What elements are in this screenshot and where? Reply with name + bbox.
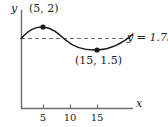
x-tick-label-15: 15: [91, 113, 104, 123]
point-maximum: [40, 24, 45, 29]
point-minimum: [94, 47, 99, 52]
x-axis-label: x: [136, 98, 142, 109]
x-tick-label-10: 10: [64, 113, 77, 123]
y-axis-label: y: [11, 3, 17, 14]
math-figure: y x (5, 2) (15, 1.5) y = 1.75 5 10 15: [0, 0, 168, 127]
minimum-point-label: (15, 1.5): [75, 55, 122, 66]
horizontal-line-label: y = 1.75: [127, 32, 168, 43]
maximum-point-label: (5, 2): [29, 3, 59, 14]
x-tick-label-5: 5: [40, 113, 46, 123]
